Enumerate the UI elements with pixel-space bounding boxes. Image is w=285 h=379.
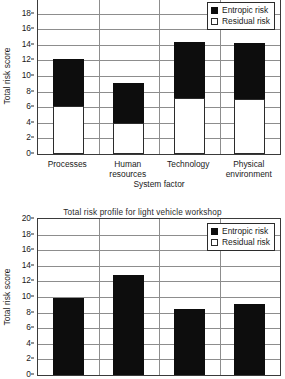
y-axis-tick-mark xyxy=(31,342,34,343)
y-axis-tick-mark xyxy=(31,358,34,359)
y-axis-tick-label: 10 xyxy=(22,292,31,300)
bar-segment xyxy=(234,99,265,154)
bar-segment xyxy=(113,275,144,375)
legend-label-entropic: Entropic risk xyxy=(222,5,268,16)
x-axis-category-label: Physical environment xyxy=(226,159,272,179)
y-axis-tick-mark xyxy=(31,264,34,265)
y-axis-tick-mark xyxy=(31,311,34,312)
chart-figure-top: Total risk score 02468101214161820 Entro… xyxy=(0,0,285,191)
legend-top: Entropic risk Residual risk xyxy=(207,2,275,30)
y-axis-tick-mark xyxy=(31,137,34,138)
bar-segment xyxy=(174,98,205,154)
y-axis-title-top: Total risk score xyxy=(0,0,14,155)
x-axis-category-label: Processes xyxy=(48,159,87,169)
category-separator xyxy=(99,0,100,154)
y-axis-tick-label: 12 xyxy=(22,276,31,284)
bar-segment xyxy=(53,59,84,107)
y-axis-tick-mark xyxy=(31,12,34,13)
y-axis-tick-mark xyxy=(31,249,34,250)
y-axis-tick-mark xyxy=(31,218,34,219)
y-axis-tick-mark xyxy=(31,43,34,44)
y-axis-tick-mark xyxy=(31,280,34,281)
y-axis-title-bottom: Total risk score xyxy=(0,218,14,376)
legend-swatch-entropic-icon xyxy=(211,7,218,14)
bar-segment xyxy=(234,304,265,375)
plot-area-bottom: Entropic risk Residual risk xyxy=(37,218,281,376)
legend-swatch-entropic-icon xyxy=(211,228,218,235)
y-axis-tick-mark xyxy=(31,106,34,107)
x-axis-category-label: Technology xyxy=(167,159,209,169)
y-axis-tick-label: 14 xyxy=(22,40,31,48)
y-axis-tick-label: 16 xyxy=(22,245,31,253)
legend-label-residual: Residual risk xyxy=(222,16,270,27)
legend-bottom: Entropic risk Residual risk xyxy=(207,223,275,251)
y-axis-tick-mark xyxy=(31,59,34,60)
y-axis-tick-label: 10 xyxy=(22,71,31,79)
category-separator xyxy=(159,219,160,375)
bar-segment xyxy=(53,298,84,375)
y-axis-tick-label: 18 xyxy=(22,229,31,237)
legend-label-entropic: Entropic risk xyxy=(222,226,268,237)
legend-item-entropic-bottom: Entropic risk xyxy=(211,226,270,237)
bar-segment xyxy=(113,123,144,154)
y-axis-tick-mark xyxy=(31,90,34,91)
y-axis-ticks-bottom: 02468101214161820 xyxy=(14,218,34,376)
plot-area-top: Entropic risk Residual risk xyxy=(37,0,281,155)
legend-item-residual-bottom: Residual risk xyxy=(211,237,270,248)
y-axis-tick-mark xyxy=(31,233,34,234)
category-separator xyxy=(159,0,160,154)
y-axis-tick-mark xyxy=(31,327,34,328)
legend-item-residual-top: Residual risk xyxy=(211,16,270,27)
y-axis-tick-label: 20 xyxy=(22,214,31,222)
y-axis-tick-mark xyxy=(31,75,34,76)
y-axis-tick-label: 14 xyxy=(22,261,31,269)
x-axis-categories-top: ProcessesHuman resourcesTechnologyPhysic… xyxy=(37,157,281,179)
chart-title-bottom: Total risk profile for light vehicle wor… xyxy=(0,207,285,218)
bar-segment xyxy=(174,309,205,375)
y-axis-tick-label: 20 xyxy=(22,0,31,1)
y-axis-tick-mark xyxy=(31,28,34,29)
bar-segment xyxy=(234,43,265,99)
plot-region-bottom: Total risk score 02468101214161820 Entro… xyxy=(0,218,285,376)
bar-segment xyxy=(113,83,144,123)
legend-item-entropic-top: Entropic risk xyxy=(211,5,270,16)
plot-region-top: Total risk score 02468101214161820 Entro… xyxy=(0,0,285,155)
legend-label-residual: Residual risk xyxy=(222,237,270,248)
bar-segment xyxy=(174,42,205,98)
y-axis-tick-mark xyxy=(31,296,34,297)
y-axis-tick-mark xyxy=(31,374,34,375)
legend-swatch-residual-icon xyxy=(211,239,218,246)
y-axis-ticks-top: 02468101214161820 xyxy=(14,0,34,155)
legend-swatch-residual-icon xyxy=(211,18,218,25)
y-axis-tick-label: 12 xyxy=(22,55,31,63)
y-axis-tick-mark xyxy=(31,121,34,122)
category-separator xyxy=(99,219,100,375)
y-axis-tick-label: 18 xyxy=(22,8,31,16)
x-axis-title-top: System factor xyxy=(37,179,281,190)
y-axis-tick-label: 16 xyxy=(22,24,31,32)
x-axis-category-label: Human resources xyxy=(109,159,146,179)
chart-figure-bottom: Total risk profile for light vehicle wor… xyxy=(0,207,285,337)
y-axis-tick-mark xyxy=(31,153,34,154)
bar-segment xyxy=(53,106,84,154)
